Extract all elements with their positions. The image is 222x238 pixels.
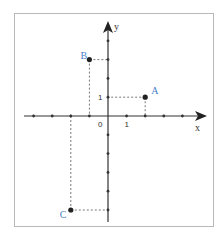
x-tick — [32, 115, 35, 118]
x-axis-label: x — [195, 122, 200, 133]
coordinate-plane: ABC x y 0 1 1 — [0, 0, 222, 238]
point-label-a: A — [151, 85, 159, 96]
y-axis-label: y — [114, 21, 119, 32]
unit-x-label: 1 — [125, 120, 130, 129]
x-tick — [162, 115, 165, 118]
y-tick — [107, 190, 110, 193]
point-label-c: C — [60, 209, 67, 220]
y-tick — [107, 209, 110, 212]
origin-label: 0 — [98, 120, 103, 129]
point-c — [68, 207, 73, 212]
y-tick — [107, 58, 110, 61]
y-tick — [107, 96, 110, 99]
x-tick — [181, 115, 184, 118]
x-tick — [144, 115, 147, 118]
x-tick — [69, 115, 72, 118]
point-label-b: B — [80, 50, 87, 61]
y-tick — [107, 77, 110, 80]
x-tick — [51, 115, 54, 118]
y-tick — [107, 39, 110, 42]
point-b — [87, 57, 92, 62]
x-tick — [88, 115, 91, 118]
x-tick — [125, 115, 128, 118]
point-a — [143, 95, 148, 100]
unit-y-label: 1 — [98, 93, 103, 102]
y-tick — [107, 133, 110, 136]
y-tick — [107, 152, 110, 155]
points: ABC — [60, 50, 159, 220]
y-tick — [107, 171, 110, 174]
